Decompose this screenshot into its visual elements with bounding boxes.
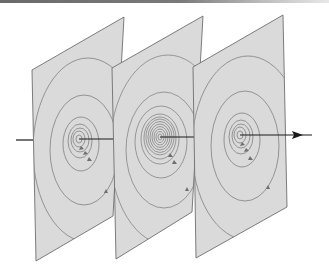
plane-3 (192, 15, 304, 258)
three-planes-spiral-diagram (0, 0, 329, 275)
